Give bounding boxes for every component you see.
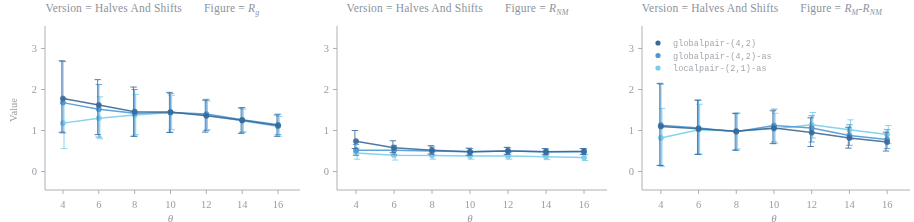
y-axis-label: Value [8, 98, 19, 122]
x-tick-label: 8 [734, 199, 739, 210]
y-tick-label: 0 [324, 166, 329, 177]
x-tick-label: 14 [237, 199, 248, 210]
series-2 [658, 84, 891, 165]
x-axis-label: θ [467, 212, 473, 222]
x-axis-label: θ [168, 212, 174, 222]
plot-area-2: 012346810121416θ [305, 0, 610, 222]
y-tick-label: 1 [32, 125, 37, 136]
chart-panel-3: Version = Halves And ShiftsFigure = RM-R… [610, 0, 914, 222]
x-tick-label: 16 [882, 199, 893, 210]
y-tick-label: 0 [629, 166, 634, 177]
y-tick-label: 3 [32, 43, 37, 54]
series-2 [60, 62, 282, 137]
x-tick-label: 12 [201, 199, 212, 210]
y-tick-label: 3 [324, 43, 329, 54]
x-tick-label: 14 [844, 199, 855, 210]
x-tick-label: 10 [465, 199, 476, 210]
y-tick-label: 3 [629, 43, 634, 54]
y-tick-label: 1 [324, 125, 329, 136]
legend-label-1: globalpair-(4,2) [673, 39, 756, 49]
y-tick-label: 2 [32, 84, 37, 95]
series-1 [59, 61, 281, 136]
legend-label-3: localpair-(2,1)-as [673, 64, 767, 74]
legend-marker-2 [655, 53, 660, 58]
x-tick-label: 16 [579, 199, 590, 210]
plot-area-1: 012346810121416θValue [0, 0, 305, 222]
x-tick-label: 16 [273, 199, 284, 210]
y-tick-label: 1 [629, 125, 634, 136]
legend: globalpair-(4,2)globalpair-(4,2)-aslocal… [655, 39, 771, 74]
x-tick-label: 4 [353, 199, 359, 210]
series-3 [658, 104, 891, 166]
y-tick-label: 2 [324, 84, 329, 95]
x-axis-label: θ [771, 212, 777, 222]
x-tick-label: 8 [429, 199, 434, 210]
x-tick-label: 4 [60, 199, 66, 210]
x-tick-label: 8 [132, 199, 137, 210]
series-1 [352, 131, 587, 156]
x-tick-label: 4 [658, 199, 664, 210]
x-tick-label: 14 [541, 199, 552, 210]
y-tick-label: 2 [629, 84, 634, 95]
x-tick-label: 6 [96, 199, 101, 210]
x-tick-label: 10 [165, 199, 176, 210]
chart-panel-1: Version = Halves And ShiftsFigure = Rg 0… [0, 0, 305, 222]
plot-area-3: 012346810121416θglobalpair-(4,2)globalpa… [610, 0, 914, 222]
x-tick-label: 12 [503, 199, 514, 210]
legend-marker-1 [655, 40, 660, 45]
legend-label-2: globalpair-(4,2)-as [673, 52, 772, 62]
chart-panel-2: Version = Halves And ShiftsFigure = RNM … [305, 0, 610, 222]
legend-marker-3 [655, 65, 660, 70]
series-1 [657, 83, 890, 165]
figure-container: Version = Halves And ShiftsFigure = Rg 0… [0, 0, 914, 222]
x-tick-label: 12 [806, 199, 817, 210]
x-tick-label: 6 [696, 199, 701, 210]
y-tick-label: 0 [32, 166, 37, 177]
x-tick-label: 6 [391, 199, 396, 210]
x-tick-label: 10 [769, 199, 780, 210]
